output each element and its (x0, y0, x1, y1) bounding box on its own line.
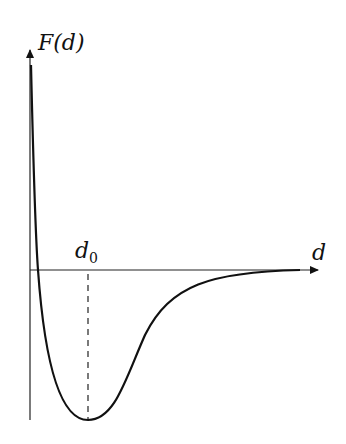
d0-label: d0 (75, 238, 98, 263)
d0-subscript: 0 (89, 250, 98, 266)
d0-main: d (75, 238, 89, 263)
x-axis-label: d (312, 240, 326, 265)
plot-canvas (0, 0, 346, 444)
potential-curve (31, 65, 300, 420)
potential-diagram: F(d) d d0 (0, 0, 346, 444)
y-axis-label: F(d) (38, 30, 85, 55)
